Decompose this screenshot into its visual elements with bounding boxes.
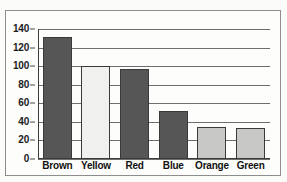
y-axis-tick-mark bbox=[30, 121, 35, 122]
bar-slot bbox=[77, 29, 116, 159]
y-axis-tick-label: 0 bbox=[24, 154, 29, 164]
bar-slot bbox=[193, 29, 232, 159]
bar-red bbox=[120, 69, 149, 159]
y-axis-tick-mark bbox=[30, 140, 35, 141]
bar-slot bbox=[231, 29, 270, 159]
bar-slot bbox=[38, 29, 77, 159]
chart-frame: 020406080100120140 BrownYellowRedBlueOra… bbox=[5, 10, 281, 176]
bar-brown bbox=[43, 37, 72, 159]
y-axis-tick-mark bbox=[30, 66, 35, 67]
x-axis-label-green: Green bbox=[231, 160, 270, 172]
bar-slot bbox=[115, 29, 154, 159]
bar-slot bbox=[154, 29, 193, 159]
bar-orange bbox=[197, 127, 226, 160]
x-axis-label-brown: Brown bbox=[38, 160, 77, 172]
y-axis-tick-label: 40 bbox=[18, 117, 29, 127]
x-axis-label-blue: Blue bbox=[154, 160, 193, 172]
y-axis-tick-label: 100 bbox=[13, 61, 29, 71]
y-axis-tick-mark bbox=[30, 47, 35, 48]
bar-green bbox=[236, 128, 265, 159]
x-axis-label-red: Red bbox=[115, 160, 154, 172]
bar-yellow bbox=[81, 66, 110, 159]
y-axis-tick-label: 80 bbox=[18, 80, 29, 90]
bars-group bbox=[38, 29, 270, 159]
x-axis-label-yellow: Yellow bbox=[77, 160, 116, 172]
x-axis: BrownYellowRedBlueOrangeGreen bbox=[38, 160, 270, 172]
y-axis-tick-label: 120 bbox=[13, 43, 29, 53]
y-axis-tick-label: 20 bbox=[18, 135, 29, 145]
bar-chart-figure: 020406080100120140 BrownYellowRedBlueOra… bbox=[0, 0, 287, 182]
y-axis-tick-mark bbox=[30, 103, 35, 104]
bar-blue bbox=[159, 111, 188, 159]
y-axis-tick-mark bbox=[30, 84, 35, 85]
y-axis: 020406080100120140 bbox=[6, 29, 35, 159]
plot-area bbox=[38, 29, 270, 159]
x-axis-label-orange: Orange bbox=[193, 160, 232, 172]
y-axis-tick-mark bbox=[30, 159, 35, 160]
y-axis-tick-label: 140 bbox=[13, 24, 29, 34]
y-axis-tick-label: 60 bbox=[18, 98, 29, 108]
y-axis-tick-mark bbox=[30, 29, 35, 30]
